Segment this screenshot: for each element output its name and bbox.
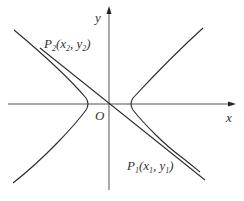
y-axis-arrow-icon [107,6,112,14]
point-p2-label: P2(x2, y2) [43,36,91,53]
point-p1-label: P1(x1, y1) [126,158,174,175]
hyperbola-left-branch [13,30,88,183]
origin-label: O [95,108,105,123]
secant-line [40,48,205,180]
x-axis-arrow-icon [228,102,236,107]
y-axis-label: y [93,10,101,25]
hyperbola-diagram: y x O P2(x2, y2) P1(x1, y1) [0,0,244,201]
x-axis-label: x [225,110,232,125]
hyperbola-right-branch [131,28,203,172]
